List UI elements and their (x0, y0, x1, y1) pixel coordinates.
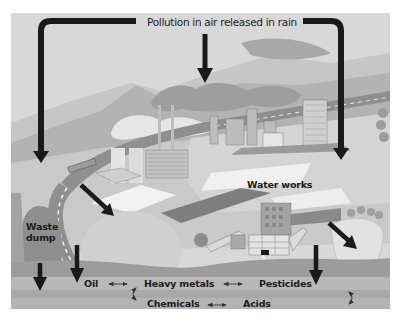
pollutant-acids: Acids (243, 298, 271, 309)
water-works-label: Water works (247, 179, 312, 190)
pollutant-oil: Oil (84, 278, 98, 289)
diagram-illustration (11, 13, 390, 309)
pollutant-pesticides: Pesticides (259, 278, 312, 289)
waste-dump-label-line1: Waste (26, 221, 58, 232)
waste-dump-label-line2: dump (26, 232, 55, 243)
diagram-title: Pollution in air released in rain (147, 16, 297, 28)
pollutant-chemicals: Chemicals (147, 298, 200, 309)
pollutant-heavy-metals: Heavy metals (144, 278, 214, 289)
pollution-diagram: Pollution in air released in rain Water … (11, 13, 390, 309)
